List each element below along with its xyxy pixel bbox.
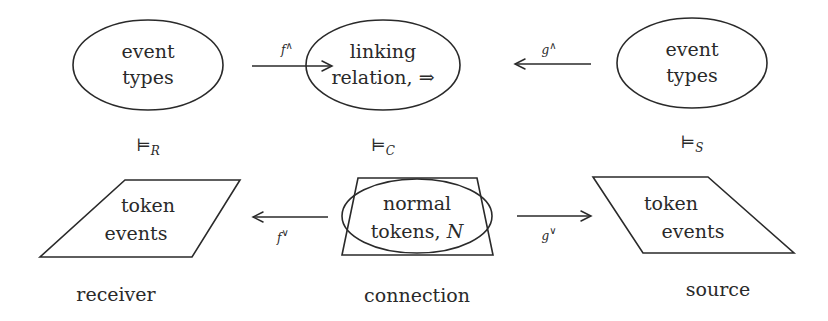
source-event-types-line2: types — [666, 64, 718, 86]
source-event-types-ellipse — [617, 18, 767, 108]
receiver-models-subscript: R — [150, 144, 160, 158]
receiver-token-events-line2: events — [105, 222, 168, 244]
g-up-label: g∧ — [541, 40, 556, 57]
caption-receiver: receiver — [76, 283, 156, 305]
receiver-event-types-line2: types — [122, 66, 174, 88]
g-down-label-sup: ∨ — [549, 225, 556, 236]
f-down-arrow: f∨ — [253, 212, 328, 245]
caption-source: source — [686, 278, 750, 300]
receiver-token-events-line1: token — [121, 194, 175, 216]
f-up-arrow: f∧ — [252, 40, 332, 71]
source-satisfaction-label: ⊨S — [681, 132, 704, 155]
linking-relation-line1: linking — [350, 40, 416, 62]
g-down-arrow: g∨ — [517, 211, 591, 243]
normal-tokens-node: normal tokens, N — [342, 178, 493, 255]
receiver-event-types-ellipse — [73, 20, 223, 110]
g-down-label: g∨ — [541, 225, 556, 243]
source-token-events-node: token events — [593, 177, 794, 253]
f-up-label-sup: ∧ — [286, 40, 293, 51]
source-models-symbol: ⊨ — [681, 132, 696, 152]
f-down-label-sup: ∨ — [282, 227, 289, 238]
source-event-types-line1: event — [665, 38, 718, 60]
source-models-subscript: S — [695, 141, 703, 155]
receiver-token-events-parallelogram — [40, 180, 240, 257]
receiver-satisfaction-label: ⊨R — [136, 135, 160, 158]
normal-tokens-variable: N — [446, 220, 465, 242]
source-event-types-node: event types — [617, 18, 767, 108]
linking-relation-line2: relation, ⇒ — [331, 66, 434, 88]
g-up-arrow: g∧ — [515, 40, 591, 69]
channel-diagram: event types linking relation, ⇒ event ty… — [0, 0, 828, 321]
source-token-events-line2: events — [662, 220, 725, 242]
receiver-event-types-node: event types — [73, 20, 223, 110]
f-up-label: f∧ — [280, 40, 293, 57]
connection-satisfaction-label: ⊨C — [371, 135, 395, 158]
receiver-event-types-line1: event — [121, 40, 174, 62]
receiver-models-symbol: ⊨ — [136, 135, 151, 155]
connection-models-symbol: ⊨ — [371, 135, 386, 155]
source-token-events-line1: token — [644, 192, 698, 214]
receiver-token-events-node: token events — [40, 180, 240, 257]
connection-models-subscript: C — [386, 144, 395, 158]
normal-tokens-line1: normal — [383, 192, 451, 214]
g-up-label-sup: ∧ — [549, 40, 556, 51]
f-down-label: f∨ — [276, 227, 289, 245]
normal-tokens-line2-prefix: tokens, — [371, 220, 447, 242]
caption-connection: connection — [364, 284, 470, 306]
normal-tokens-line2: tokens, N — [371, 220, 465, 242]
